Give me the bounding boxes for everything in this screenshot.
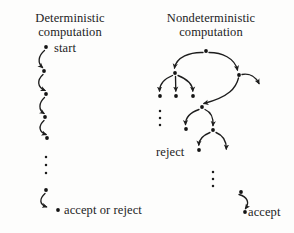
start-label: start [54, 41, 76, 56]
node-n2 [237, 73, 241, 77]
computation-graph [0, 0, 294, 233]
edge-n1-n5 [178, 76, 193, 92]
node-n3 [158, 94, 162, 98]
reject-label: reject [156, 145, 184, 160]
node-n5 [191, 94, 195, 98]
edge-d1-d2 [39, 75, 45, 91]
node-n12 [239, 190, 243, 194]
node-n4 [174, 94, 178, 98]
nondeterministic-ellipsis-left [159, 110, 162, 127]
node-d1 [42, 69, 46, 73]
edge-n9-n11 [216, 133, 226, 150]
node-d5 [44, 188, 48, 192]
node-n9 [211, 128, 215, 132]
computation-figure: Deterministic computation Nondeterminist… [0, 0, 294, 233]
node-n8 [184, 127, 188, 131]
nondeterministic-ellipsis-right [212, 171, 215, 188]
nondeterministic-tree [158, 49, 259, 214]
accept-label: accept [248, 205, 281, 220]
deterministic-ellipsis [45, 156, 48, 175]
edge-n0-n2 [209, 53, 238, 71]
node-n7 [200, 105, 204, 109]
node-d3 [43, 115, 47, 119]
node-n0-root [204, 49, 208, 53]
node-d4 [45, 136, 49, 140]
edge-d2-d3 [40, 98, 45, 114]
edge-n0-n1 [175, 52, 204, 68]
edge-n1-n3 [160, 76, 173, 92]
edge-n2-n7 [204, 78, 239, 104]
node-reject [197, 148, 201, 152]
node-start [44, 45, 48, 49]
edge-d5-d6 [41, 194, 47, 207]
edge-n9-reject [199, 133, 210, 146]
node-d2 [44, 92, 48, 96]
edge-d3-d4 [40, 121, 46, 135]
accept-or-reject-label: accept or reject [64, 203, 142, 218]
node-accept [243, 210, 247, 214]
edge-n7-n8 [186, 110, 200, 125]
edge-n7-n9 [205, 110, 213, 126]
node-accept-or-reject [56, 208, 60, 212]
edge-d0-d1 [39, 51, 44, 68]
deterministic-chain [39, 45, 60, 212]
node-n1 [173, 71, 177, 75]
edge-n2-n6 [242, 74, 259, 83]
edge-n12-accept [239, 195, 248, 209]
